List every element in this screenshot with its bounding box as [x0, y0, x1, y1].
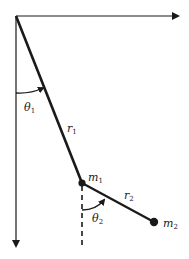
- m1-label: m1: [88, 171, 103, 185]
- theta2-arc: [82, 200, 104, 210]
- theta2-label: θ2: [92, 212, 103, 226]
- theta1-label: θ1: [24, 101, 35, 115]
- m2-label: m2: [163, 217, 178, 231]
- r1-label: r1: [67, 122, 77, 136]
- r2-label: r2: [124, 189, 134, 203]
- mass-m2-dot: [150, 218, 158, 226]
- rod-r1: [16, 16, 82, 183]
- theta1-arc: [16, 88, 43, 93]
- mass-m1-dot: [78, 179, 85, 186]
- double-pendulum-diagram: θ1 r1 m1 r2 θ2 m2: [0, 0, 189, 259]
